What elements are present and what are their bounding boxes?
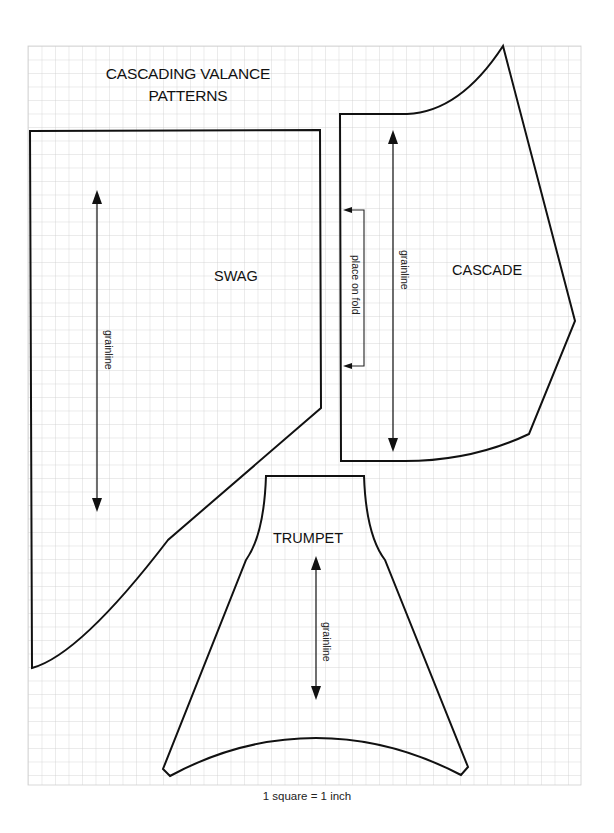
title-line-1: CASCADING VALANCE: [88, 63, 288, 85]
trumpet-grainline-label: grainline: [321, 622, 333, 662]
trumpet-piece-label: TRUMPET: [273, 530, 343, 546]
cascade-grainline-label: grainline: [399, 250, 411, 290]
title-line-2: PATTERNS: [88, 85, 288, 107]
scale-caption: 1 square = 1 inch: [0, 790, 614, 802]
grid-background: [28, 46, 581, 785]
pattern-canvas: [0, 0, 614, 833]
place-on-fold-label: place on fold: [350, 255, 362, 315]
swag-grainline-label: grainline: [103, 330, 115, 370]
swag-piece-label: SWAG: [214, 268, 258, 284]
cascade-piece-label: CASCADE: [452, 262, 522, 278]
page-title: CASCADING VALANCE PATTERNS: [88, 63, 288, 107]
